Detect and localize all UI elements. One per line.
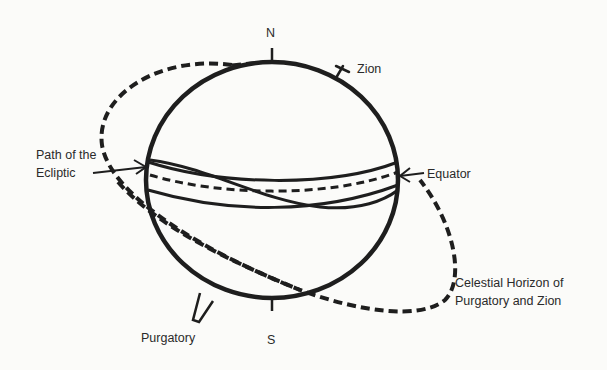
equator-label: Equator [427, 167, 471, 182]
ecliptic-arrow-icon [93, 160, 146, 174]
north-label: N [266, 26, 275, 41]
zion-label: Zion [357, 62, 381, 77]
ecliptic-label-line1: Path of the [36, 148, 96, 163]
horizon-label-line2: Purgatory and Zion [455, 294, 561, 309]
purgatory-marker-icon [193, 293, 213, 322]
celestial-sphere-diagram [0, 0, 607, 370]
ecliptic-label-line2: Ecliptic [36, 166, 76, 181]
horizon-label-line1: Celestial Horizon of [455, 276, 563, 291]
equator-band-upper [148, 162, 398, 180]
celestial-horizon-ellipse [101, 63, 455, 311]
zion-marker-icon [336, 66, 349, 78]
purgatory-label: Purgatory [141, 331, 195, 346]
south-label: S [267, 333, 275, 348]
